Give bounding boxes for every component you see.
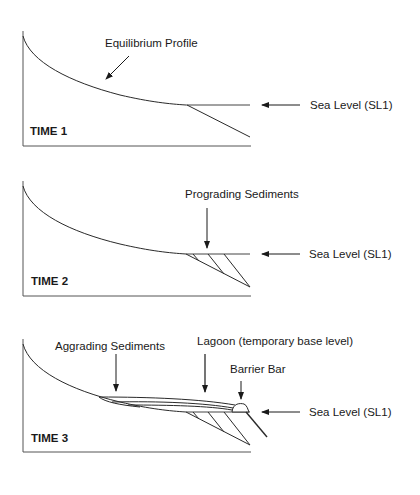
label-sea-level: Sea Level (SL1) bbox=[309, 248, 392, 260]
label-time-1: TIME 1 bbox=[30, 125, 68, 137]
label-prograding-sediments: Prograding Sediments bbox=[185, 188, 299, 200]
coastal-profile-diagram: Equilibrium Profile Sea Level (SL1) TIME… bbox=[0, 0, 420, 495]
label-sea-level: Sea Level (SL1) bbox=[310, 99, 393, 111]
prograding-sediment-wedges bbox=[186, 412, 267, 445]
label-aggrading-sediments: Aggrading Sediments bbox=[55, 340, 165, 352]
label-equilibrium-profile: Equilibrium Profile bbox=[105, 37, 198, 49]
label-sea-level: Sea Level (SL1) bbox=[309, 406, 392, 418]
shelf-slope-line bbox=[187, 105, 250, 137]
panel-time-2: Prograding Sediments Sea Level (SL1) TIM… bbox=[23, 181, 392, 296]
label-time-3: TIME 3 bbox=[31, 432, 68, 444]
prograding-sediment-wedges bbox=[186, 254, 250, 287]
label-lagoon: Lagoon (temporary base level) bbox=[197, 335, 353, 347]
arrow-equilibrium-profile bbox=[106, 56, 129, 79]
aggrading-sediment-layers bbox=[99, 397, 235, 410]
label-barrier-bar: Barrier Bar bbox=[230, 363, 286, 375]
panel-time-1: Equilibrium Profile Sea Level (SL1) TIME… bbox=[23, 31, 393, 146]
equilibrium-profile-curve bbox=[23, 186, 186, 254]
panel-time-3: Aggrading Sediments Lagoon (temporary ba… bbox=[23, 335, 392, 452]
label-time-2: TIME 2 bbox=[31, 275, 68, 287]
